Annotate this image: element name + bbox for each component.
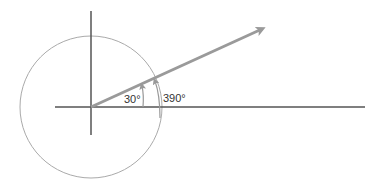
angle-label-30: 30° (124, 93, 141, 105)
arc-arrow-30 (142, 86, 143, 107)
angle-diagram: 30° 390° (0, 0, 381, 187)
angle-label-390: 390° (163, 92, 186, 104)
